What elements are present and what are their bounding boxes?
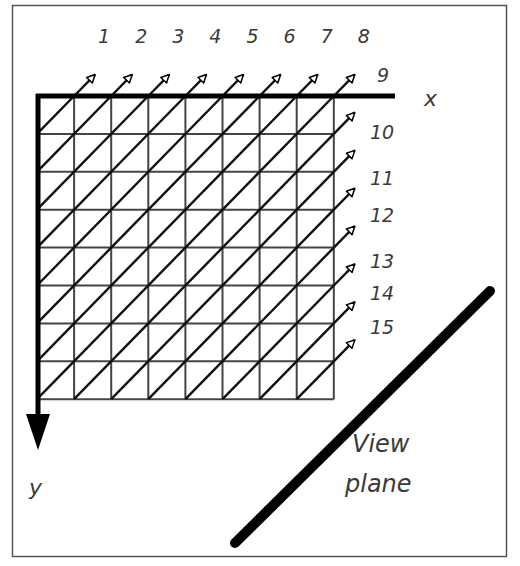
view-plane-label-line2: plane — [344, 470, 412, 498]
ray-label-14: 14 — [370, 282, 394, 304]
ray-label-3: 3 — [172, 25, 184, 47]
ray-label-9: 9 — [377, 64, 389, 86]
ray-label-10: 10 — [370, 121, 394, 143]
ray-order-diagram: 12345678 9101112131415 x y View plane — [0, 0, 520, 566]
ray-label-6: 6 — [284, 25, 296, 47]
view-plane-label-line1: View — [352, 430, 410, 458]
ray-label-2: 2 — [135, 25, 147, 47]
ray-label-12: 12 — [370, 204, 394, 226]
ray-label-13: 13 — [370, 250, 394, 272]
ray-label-7: 7 — [321, 25, 333, 47]
ray-label-4: 4 — [209, 25, 221, 47]
x-axis-label: x — [423, 86, 438, 111]
ray-label-15: 15 — [370, 316, 394, 338]
ray-label-1: 1 — [98, 25, 110, 47]
ray-label-5: 5 — [246, 25, 258, 47]
ray-label-11: 11 — [370, 167, 394, 189]
ray-label-8: 8 — [358, 25, 370, 47]
y-axis-label: y — [28, 475, 43, 500]
